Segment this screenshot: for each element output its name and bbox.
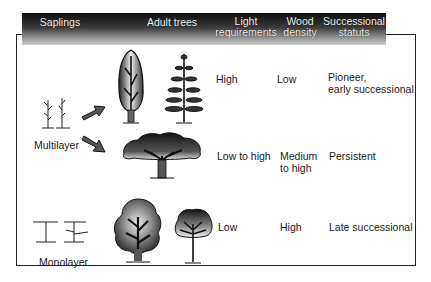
columnar-broadleaf-tree-icon bbox=[115, 48, 147, 124]
header-label: Saplings bbox=[40, 16, 80, 28]
wood-density-line2: to high bbox=[280, 162, 317, 174]
group-label-monolayer: Monolayer bbox=[39, 256, 88, 268]
header-bar: Saplings Adult trees Light requirements … bbox=[22, 13, 386, 45]
header-label-line2: requirements bbox=[206, 27, 286, 38]
row1-light: High bbox=[216, 73, 238, 85]
row3-wood-density: High bbox=[280, 221, 302, 233]
row2-light: Low to high bbox=[217, 150, 271, 162]
arrow-down-right-icon bbox=[81, 134, 107, 154]
header-successional-status: Successional statuts bbox=[318, 16, 390, 38]
header-light-requirements: Light requirements bbox=[206, 16, 286, 38]
row2-status: Persistent bbox=[329, 150, 376, 162]
header-label-line2: density bbox=[277, 27, 323, 38]
row1-wood-density: Low bbox=[277, 73, 296, 85]
row2-wood-density: Medium to high bbox=[280, 150, 317, 174]
wood-density-line1: Medium bbox=[280, 150, 317, 162]
multilayer-saplings-icon bbox=[40, 96, 76, 130]
tiered-conifer-tree-icon bbox=[164, 52, 204, 124]
group-label-multilayer: Multilayer bbox=[34, 139, 79, 151]
header-wood-density: Wood density bbox=[277, 16, 323, 38]
monolayer-saplings-icon bbox=[32, 218, 88, 244]
arrow-up-right-icon bbox=[80, 103, 106, 121]
round-crown-tree-icon bbox=[112, 197, 164, 265]
status-line1: Pioneer, bbox=[328, 71, 414, 83]
row1-status: Pioneer, early successional bbox=[328, 71, 414, 95]
row3-status: Late successional bbox=[329, 221, 412, 233]
row3-light: Low bbox=[218, 221, 237, 233]
header-label-line2: statuts bbox=[318, 27, 390, 38]
header-label: Adult trees bbox=[147, 16, 197, 28]
header-saplings: Saplings bbox=[30, 17, 90, 28]
umbrella-crown-tree-icon bbox=[120, 130, 204, 180]
small-round-tree-icon bbox=[172, 208, 214, 264]
status-line2: early successional bbox=[328, 83, 414, 95]
header-adult-trees: Adult trees bbox=[132, 17, 212, 28]
